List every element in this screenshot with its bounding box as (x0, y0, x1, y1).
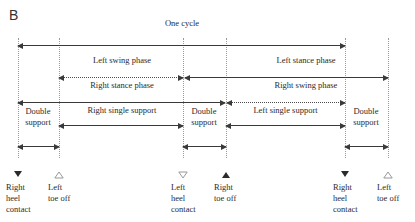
right-stance-phase-label: Right stance phase (62, 80, 182, 91)
event-line2: heel (6, 193, 20, 203)
left-swing-phase-arrow (59, 77, 183, 78)
right-single-support-label: Right single support (62, 105, 182, 116)
panel-label: B (9, 7, 19, 23)
double-support-line2: support (25, 117, 51, 127)
left-stance-phase-label: Left stance phase (226, 55, 386, 66)
event-guide-line-1 (18, 38, 19, 158)
double-support-label-3: Double support (342, 106, 390, 128)
event-label-3: Left heel contact (171, 182, 196, 215)
one-cycle-arrow (18, 45, 345, 46)
event-line3: contact (171, 204, 196, 214)
arrowhead-left-icon (17, 100, 23, 106)
event-label-4: Right toe off (214, 182, 236, 204)
event-guide-line-6 (388, 38, 389, 158)
event-line1: Right (6, 182, 25, 192)
event-guide-line-2 (59, 38, 60, 158)
double-support-line2: support (353, 117, 379, 127)
event-line1: Right (333, 182, 352, 192)
event-line2: toe off (214, 193, 236, 203)
left-single-support-label: Left single support (226, 105, 345, 116)
double-support-label-1: Double support (14, 106, 62, 128)
double-support-line1: Double (353, 106, 378, 116)
right-stance-phase-arrow (18, 102, 225, 103)
triangle-up-open-icon (383, 171, 393, 179)
arrowhead-left-icon (344, 144, 350, 150)
arrowhead-right-icon (54, 144, 60, 150)
event-guide-line-3 (183, 38, 184, 158)
event-line3: contact (6, 204, 31, 214)
double-support-arrow-3 (345, 146, 388, 147)
triangle-up-open-icon (54, 171, 64, 179)
event-line2: heel (171, 193, 185, 203)
double-support-label-2: Double support (180, 106, 228, 128)
triangle-up-filled-icon (222, 172, 230, 178)
event-line1: Right (214, 182, 233, 192)
triangle-down-filled-icon (14, 171, 22, 177)
event-label-2: Left toe off (48, 182, 70, 204)
arrowhead-right-icon (221, 144, 227, 150)
event-line1: Left (171, 182, 185, 192)
event-label-5: Right heel contact (333, 182, 358, 215)
double-support-line1: Double (191, 106, 216, 116)
right-swing-phase-arrow (227, 102, 345, 103)
arrowhead-left-icon (17, 43, 23, 49)
event-line3: contact (333, 204, 358, 214)
arrowhead-left-icon (182, 144, 188, 150)
left-stance-phase-arrow (185, 77, 388, 78)
event-line2: heel (333, 193, 347, 203)
right-swing-phase-label: Right swing phase (226, 80, 386, 91)
event-label-1: Right heel contact (6, 182, 31, 215)
double-support-arrow-2 (183, 146, 226, 147)
event-line1: Left (48, 182, 62, 192)
triangle-down-open-icon (178, 171, 188, 179)
one-cycle-label: One cycle (132, 18, 232, 28)
triangle-down-filled-icon (341, 171, 349, 177)
arrowhead-right-icon (340, 43, 346, 49)
double-support-line2: support (191, 117, 217, 127)
event-label-6: Left toe off (377, 182, 399, 204)
double-support-arrow-1 (18, 146, 59, 147)
event-line2: toe off (48, 193, 70, 203)
event-line2: toe off (377, 193, 399, 203)
arrowhead-right-icon (383, 144, 389, 150)
double-support-line1: Double (25, 106, 50, 116)
arrowhead-left-icon (17, 144, 23, 150)
right-single-support-arrow (59, 125, 183, 126)
event-line1: Left (377, 182, 391, 192)
left-single-support-arrow (226, 125, 345, 126)
left-swing-phase-label: Left swing phase (62, 55, 182, 66)
arrowhead-left-icon (184, 75, 190, 81)
